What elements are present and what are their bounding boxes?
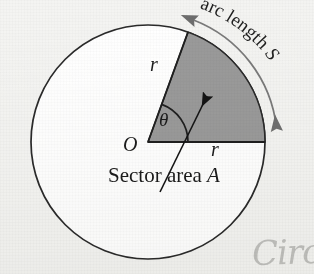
radius-lower-label: r (211, 139, 219, 159)
radius-upper-label: r (150, 54, 158, 74)
sector-area-label: Sector area A (108, 165, 220, 186)
sector-area-label-var: A (207, 163, 220, 187)
angle-theta-label: θ (159, 110, 168, 129)
circle-sector-figure: arc length S r r θ O Sector area A Circ (0, 0, 314, 274)
handwritten-annotation: Circ (251, 231, 314, 273)
center-point-label: O (123, 134, 137, 154)
sector-area-label-text: Sector area (108, 163, 202, 187)
